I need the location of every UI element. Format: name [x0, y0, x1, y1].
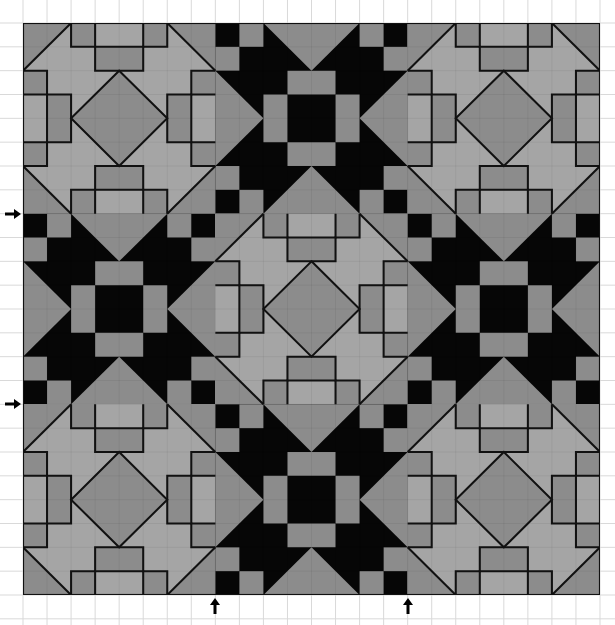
- edge-square: [191, 142, 215, 166]
- star-corner-square: [191, 238, 215, 262]
- edge-square: [456, 571, 480, 595]
- edge-square: [71, 571, 95, 595]
- bottom-arrow-col-8-icon: [209, 597, 221, 615]
- star-corner-square: [47, 214, 71, 238]
- star-corner-square: [384, 428, 408, 452]
- star-corner-square: [167, 381, 191, 405]
- star-corner-square: [47, 381, 71, 405]
- star-corner-square: [239, 23, 263, 47]
- star-corner-square: [215, 547, 239, 571]
- star-corner-square: [408, 238, 432, 262]
- edge-square: [528, 190, 552, 214]
- edge-square: [263, 381, 287, 405]
- edge-square: [215, 261, 239, 285]
- star-corner-square: [360, 190, 384, 214]
- edge-square: [384, 333, 408, 357]
- star-corner-square: [408, 357, 432, 381]
- edge-square: [408, 71, 432, 95]
- edge-square: [143, 23, 167, 47]
- left-arrow-row-8-icon: [4, 208, 22, 220]
- star-corner-square: [23, 357, 47, 381]
- star-corner-square: [215, 428, 239, 452]
- edge-square: [408, 524, 432, 548]
- edge-square: [576, 142, 600, 166]
- star-corner-square: [360, 23, 384, 47]
- edge-square: [71, 23, 95, 47]
- star-corner-square: [215, 47, 239, 71]
- star-corner-square: [552, 214, 576, 238]
- star-corner-square: [576, 357, 600, 381]
- star-corner-square: [23, 238, 47, 262]
- star-corner-square: [432, 381, 456, 405]
- edge-square: [384, 261, 408, 285]
- bottom-arrow-col-16-icon: [402, 597, 414, 615]
- star-corner-square: [384, 47, 408, 71]
- edge-square: [23, 142, 47, 166]
- quilt-pattern: [23, 23, 600, 595]
- star-corner-square: [384, 547, 408, 571]
- edge-square: [191, 452, 215, 476]
- edge-square: [23, 71, 47, 95]
- edge-square: [336, 214, 360, 238]
- edge-square: [576, 452, 600, 476]
- edge-square: [143, 404, 167, 428]
- edge-square: [408, 452, 432, 476]
- edge-square: [528, 404, 552, 428]
- edge-square: [576, 71, 600, 95]
- edge-square: [215, 333, 239, 357]
- edge-square: [71, 190, 95, 214]
- star-corner-square: [191, 357, 215, 381]
- edge-square: [528, 571, 552, 595]
- star-corner-square: [215, 166, 239, 190]
- edge-square: [23, 524, 47, 548]
- edge-square: [71, 404, 95, 428]
- star-corner-square: [552, 381, 576, 405]
- edge-square: [456, 190, 480, 214]
- edge-square: [263, 214, 287, 238]
- star-corner-square: [432, 214, 456, 238]
- edge-square: [456, 404, 480, 428]
- edge-square: [576, 524, 600, 548]
- star-corner-square: [360, 404, 384, 428]
- left-arrow-row-16-icon: [4, 398, 22, 410]
- edge-square: [143, 190, 167, 214]
- edge-square: [191, 71, 215, 95]
- edge-square: [143, 571, 167, 595]
- edge-square: [336, 381, 360, 405]
- star-corner-square: [576, 238, 600, 262]
- edge-square: [528, 23, 552, 47]
- star-corner-square: [167, 214, 191, 238]
- star-corner-square: [239, 404, 263, 428]
- star-corner-square: [384, 166, 408, 190]
- star-corner-square: [239, 190, 263, 214]
- star-corner-square: [239, 571, 263, 595]
- edge-square: [191, 524, 215, 548]
- edge-square: [456, 23, 480, 47]
- edge-square: [23, 452, 47, 476]
- star-corner-square: [360, 571, 384, 595]
- edge-square: [408, 142, 432, 166]
